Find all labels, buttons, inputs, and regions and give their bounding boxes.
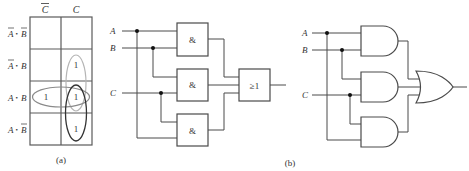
- and-symbol: &: [189, 35, 196, 45]
- kmap-cell: 1: [74, 124, 79, 134]
- kmap-cell: 1: [74, 92, 79, 102]
- junction-dot: [325, 31, 329, 35]
- row-label-abar-b: A • B: [7, 60, 27, 71]
- svg-text:B: B: [21, 61, 27, 71]
- svg-text:A: A: [7, 29, 14, 39]
- and-symbol: &: [189, 126, 196, 136]
- caption-a: (a): [56, 155, 66, 165]
- svg-text:•: •: [16, 94, 19, 102]
- wire-and3-out: [208, 93, 239, 130]
- iec-logic-circuit: A B C & & & ≥1: [109, 23, 286, 146]
- karnaugh-map: C C A • B A • B A • B A •: [7, 4, 92, 166]
- ansi-logic-circuit: A B C: [301, 26, 467, 147]
- input-label-c: C: [110, 88, 117, 98]
- wire-and1-out: [208, 39, 239, 77]
- row-label-abar-bbar: A • B: [7, 28, 27, 39]
- wire-c-branch: [350, 95, 361, 124]
- junction-dot: [340, 48, 344, 52]
- wire-b-branch: [342, 50, 361, 79]
- junction-dot: [348, 93, 352, 97]
- caption-b: (b): [285, 158, 296, 168]
- svg-text:•: •: [16, 62, 19, 70]
- or-symbol: ≥1: [250, 81, 259, 91]
- kmap-cell: 1: [74, 60, 79, 70]
- and-gate-2: [361, 72, 398, 102]
- svg-text:B: B: [21, 93, 27, 103]
- input-label-b: B: [302, 45, 308, 55]
- svg-text:•: •: [16, 30, 19, 38]
- svg-text:•: •: [16, 126, 19, 134]
- and-symbol: &: [189, 80, 196, 90]
- wire-c-branch: [161, 93, 177, 122]
- input-label-c: C: [302, 90, 309, 100]
- wire-b-branch: [153, 48, 177, 77]
- row-label-a-bbar: A • B: [7, 124, 27, 135]
- svg-text:A: A: [7, 93, 14, 103]
- or-gate: [416, 71, 453, 103]
- junction-dot: [159, 91, 163, 95]
- input-label-b: B: [110, 43, 116, 53]
- and-gate-3: [361, 117, 398, 147]
- column-header-c-bar: C: [42, 4, 49, 15]
- svg-text:B: B: [21, 125, 27, 135]
- junction-dot: [151, 46, 155, 50]
- svg-text:A: A: [7, 125, 14, 135]
- junction-dot: [135, 29, 139, 33]
- input-label-a: A: [301, 28, 308, 38]
- kmap-cell: 1: [44, 92, 49, 102]
- diagram-canvas: C C A • B A • B A • B A •: [0, 0, 469, 171]
- input-label-a: A: [109, 26, 116, 36]
- row-label-a-b: A • B: [7, 93, 27, 103]
- svg-text:B: B: [21, 29, 27, 39]
- and-gate-1: [361, 26, 398, 56]
- svg-text:A: A: [7, 61, 14, 71]
- column-header-c: C: [73, 4, 80, 15]
